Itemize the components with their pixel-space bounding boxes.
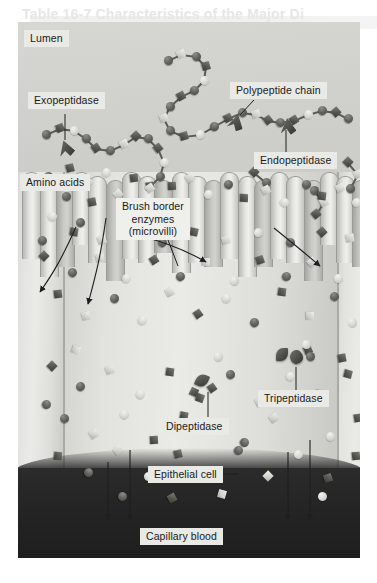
tripeptide-residue <box>306 352 315 361</box>
amino-acid-diamond <box>95 253 104 262</box>
residue-diamond <box>250 108 260 118</box>
amino-acid-diamond <box>202 258 210 266</box>
label-polypeptide-chain: Polypeptide chain <box>230 82 327 99</box>
absorbed-amino-acid-diamond <box>150 436 158 444</box>
amino-acid-diamond <box>345 233 354 242</box>
brush-border-line-3: (microvilli) <box>122 225 184 238</box>
figure-page: Table 16-7 Characteristics of the Major … <box>0 0 377 583</box>
absorbed-amino-acid-diamond <box>166 368 175 377</box>
absorbed-amino-acid-diamond <box>352 452 360 461</box>
residue-sphere <box>191 51 201 61</box>
residue-sphere <box>310 186 319 195</box>
amino-acid-diamond <box>69 227 78 236</box>
label-brush-border-enzymes: Brush border enzymes (microvilli) <box>116 198 190 240</box>
residue-sphere <box>345 183 355 193</box>
residue-diamond <box>201 61 211 71</box>
residue-sphere <box>165 125 175 135</box>
label-endopeptidase: Endopeptidase <box>254 152 337 169</box>
amino-acid-diamond <box>240 194 248 202</box>
residue-sphere <box>69 125 79 135</box>
amino-acid-diamond <box>168 182 176 190</box>
microvillus <box>88 176 107 263</box>
residue-sphere <box>237 107 246 116</box>
amino-acid-diamond <box>54 290 63 299</box>
absorbed-amino-acid-diamond <box>337 353 346 362</box>
label-epithelial-cell: Epithelial cell <box>148 466 223 483</box>
microvillus <box>286 176 305 263</box>
microvillus <box>352 180 360 267</box>
residue-sphere <box>42 130 51 139</box>
label-exopeptidase: Exopeptidase <box>28 92 105 109</box>
label-capillary-blood: Capillary blood <box>140 528 223 545</box>
residue-sphere <box>199 75 210 86</box>
amino-acid-diamond <box>306 312 314 320</box>
residue-sphere <box>165 101 174 110</box>
label-tripeptidase: Tripeptidase <box>258 390 329 407</box>
absorbed-amino-acid-diamond <box>353 413 360 422</box>
tripeptide-residue-light <box>302 340 311 349</box>
amino-acid-diamond <box>130 174 139 183</box>
brush-border-line-1: Brush border <box>122 200 184 213</box>
label-amino-acids: Amino acids <box>20 174 90 191</box>
label-dipeptidase: Dipeptidase <box>160 418 229 435</box>
label-lumen: Lumen <box>24 30 69 47</box>
illustration-plate: Lumen Exopeptidase Polypeptide chain End… <box>18 22 360 558</box>
amino-acid-diamond <box>318 192 327 201</box>
absorbed-amino-acid-diamond <box>54 452 63 461</box>
residue-sphere <box>164 56 173 65</box>
brush-border-line-2: enzymes <box>122 213 184 226</box>
residue-diamond <box>179 131 189 141</box>
amino-acid-diamond <box>87 197 96 206</box>
amino-acid-diamond <box>278 288 287 297</box>
